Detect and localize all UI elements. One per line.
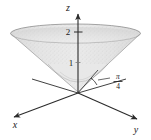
z-tick-label-1: 1	[69, 58, 74, 68]
y-axis-label: y	[133, 124, 139, 135]
diagram-canvas: z x y 2 1 π 4	[0, 0, 151, 140]
x-axis-line	[14, 93, 78, 117]
cone-opening-band	[13, 27, 138, 43]
x-axis-label: x	[12, 119, 18, 130]
angle-denominator-label: 4	[116, 82, 120, 91]
angle-leader-line	[98, 78, 110, 80]
y-axis-line	[78, 93, 137, 119]
angle-arc	[91, 78, 97, 85]
z-tick-label-2: 2	[66, 27, 71, 37]
cone-diagram-figure: z x y 2 1 π 4	[0, 0, 151, 140]
angle-numerator-label: π	[116, 72, 120, 81]
z-axis-label: z	[65, 2, 70, 13]
